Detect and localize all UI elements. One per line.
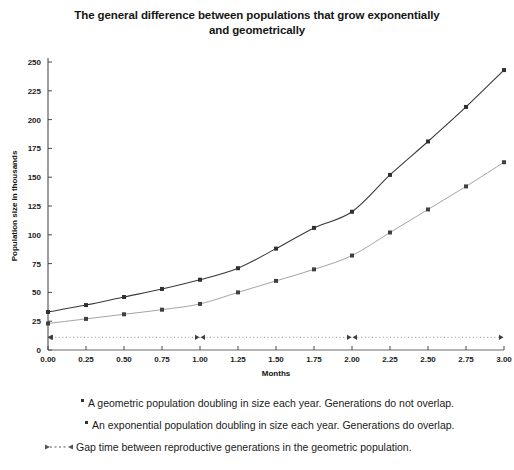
data-point-marker	[46, 322, 50, 326]
x-axis-tick-label: 1.00	[192, 355, 208, 364]
data-point-marker	[274, 279, 278, 283]
dot-marker-icon	[0, 396, 88, 410]
data-point-marker	[464, 184, 468, 188]
data-point-marker	[160, 287, 164, 291]
x-axis-tick-label: 2.50	[420, 355, 436, 364]
x-axis-tick-label: 1.50	[268, 355, 284, 364]
gap-time-arrow-marker	[499, 335, 504, 340]
x-axis-tick-label: 2.00	[344, 355, 360, 364]
x-axis-title: Months	[262, 369, 291, 378]
x-axis-tick-label: 0.25	[78, 355, 94, 364]
data-point-marker	[274, 247, 278, 251]
y-axis-tick-label: 100	[28, 231, 42, 240]
legend-item-exponential: An exponential population doubling in si…	[0, 414, 514, 436]
data-point-marker	[198, 278, 202, 282]
legend-item-gap-time: Gap time between reproductive generation…	[0, 436, 514, 458]
y-axis-tick-label: 25	[32, 317, 41, 326]
x-axis-tick-label: 0.50	[116, 355, 132, 364]
x-axis-tick-label: 1.75	[306, 355, 322, 364]
y-axis-tick-label: 175	[28, 144, 42, 153]
x-axis-tick-label: 0.00	[40, 355, 56, 364]
data-point-marker	[350, 254, 354, 258]
data-series-line	[48, 70, 504, 312]
y-axis-title: Population size in thousands	[10, 150, 19, 261]
legend-item-geometric-label: A geometric population doubling in size …	[88, 397, 454, 409]
y-axis-tick-label: 125	[28, 202, 42, 211]
data-point-marker	[122, 312, 126, 316]
chart-plot-area: 02550751001251501752002252500.000.250.50…	[0, 0, 514, 380]
x-axis-tick-label: 2.75	[458, 355, 474, 364]
data-series-line	[48, 162, 504, 323]
data-point-marker	[236, 266, 240, 270]
y-axis-tick-label: 250	[28, 58, 42, 67]
y-axis-tick-label: 225	[28, 87, 42, 96]
y-axis-tick-label: 200	[28, 116, 42, 125]
data-point-marker	[198, 302, 202, 306]
data-point-marker	[84, 317, 88, 321]
data-point-marker	[426, 139, 430, 143]
legend-item-exponential-label: An exponential population doubling in si…	[92, 419, 455, 431]
line-chart: 02550751001251501752002252500.000.250.50…	[0, 0, 514, 380]
data-point-marker	[502, 68, 506, 72]
data-point-marker	[350, 210, 354, 214]
gap-arrow-marker-icon	[0, 440, 74, 454]
data-point-marker	[312, 226, 316, 230]
x-axis-tick-label: 2.25	[382, 355, 398, 364]
dot-marker-icon	[0, 418, 92, 432]
gap-time-arrow-marker	[347, 335, 357, 340]
x-axis-tick-label: 3.00	[496, 355, 512, 364]
data-point-marker	[160, 308, 164, 312]
data-point-marker	[426, 207, 430, 211]
data-point-marker	[502, 160, 506, 164]
y-axis-tick-label: 150	[28, 173, 42, 182]
legend-item-geometric: A geometric population doubling in size …	[0, 392, 514, 414]
data-point-marker	[388, 230, 392, 234]
data-point-marker	[236, 290, 240, 294]
data-point-marker	[388, 173, 392, 177]
x-axis-tick-label: 1.25	[230, 355, 246, 364]
data-point-marker	[46, 310, 50, 314]
y-axis-tick-label: 50	[32, 288, 41, 297]
y-axis-tick-label: 75	[32, 260, 41, 269]
data-point-marker	[312, 267, 316, 271]
data-point-marker	[84, 303, 88, 307]
data-point-marker	[122, 295, 126, 299]
legend-item-gap-time-label: Gap time between reproductive generation…	[76, 441, 412, 453]
x-axis-tick-label: 0.75	[154, 355, 170, 364]
y-axis-tick-label: 0	[37, 346, 42, 355]
chart-legend: A geometric population doubling in size …	[0, 392, 514, 458]
data-point-marker	[464, 105, 468, 109]
